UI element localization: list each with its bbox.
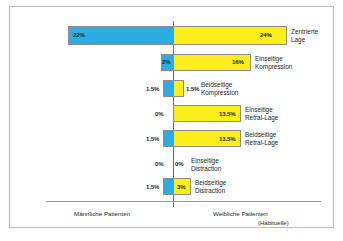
- value-male: 2%: [162, 59, 170, 65]
- axis-label-female: Weibliche Patienten: [213, 210, 268, 217]
- value-female: 16%: [232, 59, 244, 65]
- value-male: 1.5%: [146, 136, 159, 142]
- category-label-line1: Beidseitige: [201, 81, 232, 89]
- category-label-line2: Lage: [291, 36, 305, 44]
- chart-plot-area: 22% 24% Zentrierte Lage 2% 16% Einseitig…: [10, 7, 335, 229]
- value-male: 1.5%: [146, 184, 159, 190]
- baseline-rule: [46, 201, 321, 202]
- chart-note: (Habituelle): [258, 220, 289, 226]
- category-label-line2: Kompression: [201, 89, 238, 97]
- table-row: 1.5% 13.5% Beidseitige Retral-Lage: [10, 127, 335, 153]
- table-row: 1.5% 1.5% Beidseitige Kompression: [10, 77, 335, 103]
- value-female: 24%: [260, 32, 272, 38]
- value-female: 13.5%: [219, 136, 236, 142]
- category-label-line2: Distraction: [191, 165, 221, 173]
- value-male: 0%: [155, 111, 163, 117]
- value-female: 3%: [177, 184, 185, 190]
- value-male: 22%: [73, 32, 85, 38]
- table-row: 1.5% 3% Beidseitige Distraction: [10, 175, 335, 201]
- category-label-line2: Kompression: [255, 63, 292, 71]
- table-row: 22% 24% Zentrierte Lage: [10, 23, 335, 49]
- category-label-line2: Distraction: [195, 187, 225, 195]
- value-male: 0%: [155, 161, 163, 167]
- category-label-line1: Zentrierte: [291, 28, 318, 36]
- category-label-line2: Retral-Lage: [245, 139, 278, 147]
- table-row: 2% 16% Einseitige Kompression: [10, 51, 335, 77]
- category-label-line1: Einseitige: [255, 55, 283, 63]
- category-label-line1: Beidseitige: [195, 179, 226, 187]
- value-male: 1.5%: [146, 86, 159, 92]
- category-label-line1: Beidseitige: [245, 131, 276, 139]
- category-label-line1: Einseitige: [245, 106, 273, 114]
- axis-label-male: Männliche Patienten: [74, 210, 130, 217]
- value-female: 13.5%: [219, 111, 236, 117]
- bar-female: [173, 80, 184, 97]
- category-label-line2: Retral-Lage: [245, 114, 278, 122]
- value-female: 1.5%: [186, 86, 199, 92]
- value-female: 0%: [175, 161, 183, 167]
- table-row: 0% 13.5% Einseitige Retral-Lage: [10, 102, 335, 128]
- category-label-line1: Einseitige: [191, 157, 219, 165]
- chart-frame: 22% 24% Zentrierte Lage 2% 16% Einseitig…: [9, 6, 334, 228]
